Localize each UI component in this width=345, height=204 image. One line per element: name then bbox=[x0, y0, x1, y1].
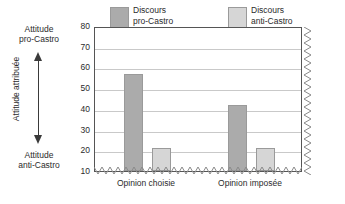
y-axis-title: Attitude attribuée bbox=[11, 29, 21, 149]
legend-label-anti-castro: Discours anti-Castro bbox=[251, 5, 293, 26]
y-axis-tick-10: 10 bbox=[60, 166, 90, 176]
arrow-down-head-icon bbox=[34, 135, 42, 144]
y-axis-tick-labels: 8070605040302010 bbox=[60, 0, 90, 204]
y-axis-tick-40: 40 bbox=[60, 104, 90, 114]
double-arrow-icon bbox=[37, 52, 40, 144]
legend-label-pro-castro: Discours pro-Castro bbox=[133, 5, 173, 26]
legend-label-pro-castro-line2: pro-Castro bbox=[133, 16, 173, 27]
y-axis-tick-60: 60 bbox=[60, 62, 90, 72]
x-axis-tick-opinion-imposée: Opinion imposée bbox=[190, 178, 310, 188]
gridline-60 bbox=[95, 69, 301, 70]
bar-opinion-imposée-discours-pro-castro bbox=[228, 105, 247, 171]
legend-label-anti-castro-line1: Discours bbox=[251, 5, 293, 16]
legend-swatch-anti-castro bbox=[228, 7, 247, 28]
gridline-70 bbox=[95, 49, 301, 50]
y-axis-tick-20: 20 bbox=[60, 145, 90, 155]
y-axis-tick-50: 50 bbox=[60, 83, 90, 93]
y-axis-tick-70: 70 bbox=[60, 42, 90, 52]
bar-opinion-choisie-discours-pro-castro bbox=[124, 74, 143, 171]
legend-label-anti-castro-line2: anti-Castro bbox=[251, 16, 293, 27]
plot-area bbox=[94, 27, 302, 172]
chart-figure: Attitude pro-Castro Attitude anti-Castro… bbox=[0, 0, 345, 204]
legend-label-pro-castro-line1: Discours bbox=[133, 5, 173, 16]
right-axis-break-zigzag-icon bbox=[303, 27, 312, 175]
bottom-axis-break-zigzag-icon bbox=[94, 166, 302, 175]
legend-swatch-pro-castro bbox=[110, 7, 129, 28]
y-axis-tick-80: 80 bbox=[60, 21, 90, 31]
arrow-shaft bbox=[38, 59, 39, 137]
y-axis-tick-30: 30 bbox=[60, 125, 90, 135]
x-axis-tick-opinion-choisie: Opinion choisie bbox=[86, 178, 206, 188]
